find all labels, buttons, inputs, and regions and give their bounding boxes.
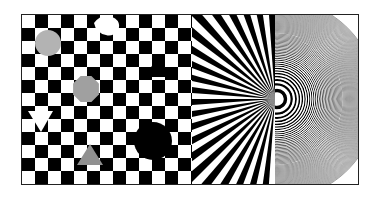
test-pattern-frame <box>21 14 359 185</box>
circle-shape <box>134 122 172 160</box>
octagon-shape <box>73 76 99 102</box>
test-pattern-image <box>22 15 358 184</box>
checkerboard-panel <box>22 15 192 184</box>
circle-shape <box>35 30 61 56</box>
